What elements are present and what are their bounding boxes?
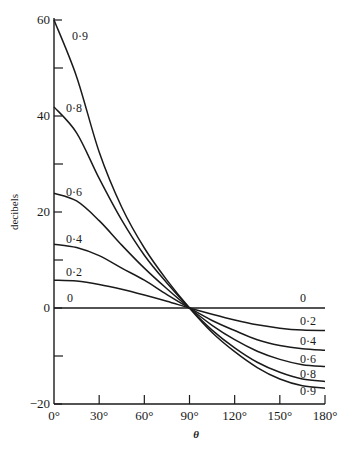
curve-label-left: 0·4 bbox=[66, 232, 82, 246]
curve-label-right: 0·9 bbox=[300, 384, 316, 398]
curve-label-right: 0 bbox=[300, 291, 306, 305]
x-tick-label: 150° bbox=[267, 408, 292, 423]
curve-label-left: 0·6 bbox=[66, 185, 82, 199]
x-tick-label: 90° bbox=[180, 408, 198, 423]
y-tick-label: 20 bbox=[37, 204, 50, 219]
curve-0-6 bbox=[54, 193, 325, 366]
x-axis-title: θ bbox=[193, 428, 199, 440]
curve-0-9 bbox=[54, 20, 325, 388]
curve-label-left: 0·8 bbox=[66, 101, 82, 115]
labels: 00·20·40·60·80·900·20·40·60·80·9 bbox=[66, 29, 316, 398]
curve-label-right: 0·2 bbox=[300, 314, 316, 328]
y-tick-label: −20 bbox=[30, 396, 50, 411]
curve-label-right: 0·4 bbox=[300, 334, 316, 348]
x-tick-label: 0° bbox=[48, 408, 60, 423]
curve-label-right: 0·8 bbox=[300, 367, 316, 381]
x-tick-label: 30° bbox=[90, 408, 108, 423]
curve-label-left: 0·9 bbox=[72, 29, 88, 43]
y-tick-label: 40 bbox=[37, 108, 50, 123]
curve-0-2 bbox=[54, 280, 325, 330]
curve-label-left: 0 bbox=[67, 291, 73, 305]
x-tick-label: 180° bbox=[313, 408, 338, 423]
x-tick-label: 120° bbox=[222, 408, 247, 423]
curve-0-4 bbox=[54, 244, 325, 350]
directivity-chart: −2002040600°30°60°90°120°150°180°θdecibe… bbox=[0, 0, 348, 451]
curve-label-left: 0·2 bbox=[66, 265, 82, 279]
x-tick-label: 60° bbox=[135, 408, 153, 423]
curve-0-8 bbox=[54, 107, 325, 382]
y-tick-label: 0 bbox=[44, 300, 51, 315]
curve-label-right: 0·6 bbox=[300, 352, 316, 366]
y-tick-label: 60 bbox=[37, 12, 50, 27]
y-axis-title: decibels bbox=[8, 194, 20, 230]
curves bbox=[54, 20, 325, 388]
